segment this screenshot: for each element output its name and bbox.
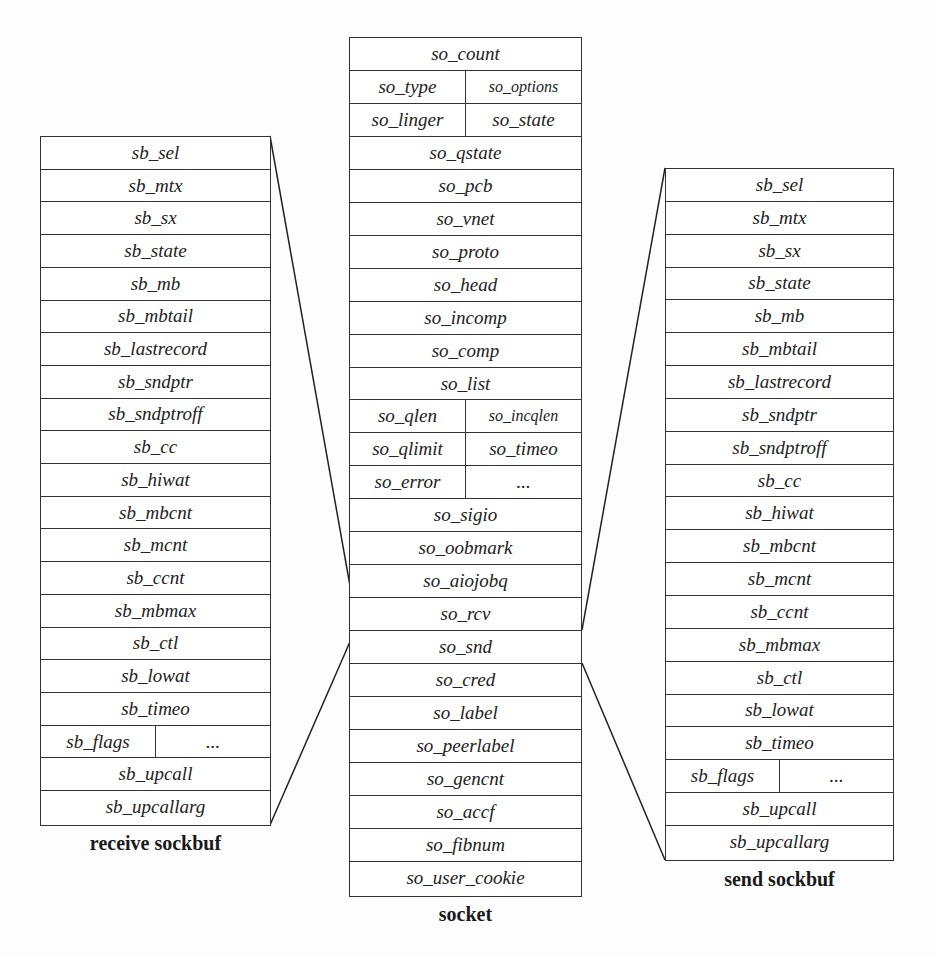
struct-field-row: sb_ctl — [41, 628, 270, 661]
field-sb-lowat: sb_lowat — [41, 660, 270, 692]
struct-field-row: sb_mbcnt — [41, 497, 270, 530]
struct-field-row: sb_mbmax — [666, 629, 893, 662]
field-sb-sel: sb_sel — [666, 169, 893, 201]
struct-field-row: so_gencnt — [350, 763, 581, 796]
struct-field-row: so_cred — [350, 664, 581, 697]
struct-field-row: sb_mtx — [41, 170, 270, 203]
field-sb-flags: sb_flags — [666, 760, 779, 792]
struct-field-row: so_proto — [350, 236, 581, 269]
field-so-comp: so_comp — [350, 335, 581, 367]
struct-field-row: so_user_cookie — [350, 862, 581, 895]
struct-field-row: sb_mb — [666, 300, 893, 333]
struct-field-row: so_qlenso_incqlen — [350, 400, 581, 433]
struct-field-row: sb_cc — [666, 465, 893, 498]
field-so-rcv: so_rcv — [350, 598, 581, 630]
struct-field-row: sb_lastrecord — [666, 366, 893, 399]
struct-field-row: sb_ccnt — [666, 596, 893, 629]
struct-field-row: so_count — [350, 38, 581, 71]
field-sb-state: sb_state — [41, 235, 270, 267]
send-sockbuf-caption: send sockbuf — [665, 868, 894, 891]
struct-field-row: sb_upcallarg — [41, 791, 270, 824]
snd-connector-bottom — [582, 663, 665, 860]
field-sb-cc: sb_cc — [666, 465, 893, 497]
struct-field-row: sb_sel — [41, 137, 270, 170]
field-so-pcb: so_pcb — [350, 170, 581, 202]
struct-field-row: so_error... — [350, 466, 581, 499]
field-sb-lastrecord: sb_lastrecord — [666, 366, 893, 398]
struct-field-row: sb_mtx — [666, 202, 893, 235]
field-sb-mbtail: sb_mbtail — [666, 333, 893, 365]
field-sb-mtx: sb_mtx — [666, 202, 893, 234]
struct-field-row: sb_sndptr — [666, 399, 893, 432]
rcv-connector-top — [270, 136, 352, 597]
field-sb-sx: sb_sx — [666, 235, 893, 267]
struct-field-row: so_label — [350, 697, 581, 730]
field-sb-mbtail: sb_mbtail — [41, 301, 270, 333]
field-sb-mcnt: sb_mcnt — [666, 563, 893, 595]
field-sb-state: sb_state — [666, 268, 893, 300]
struct-field-row: sb_hiwat — [41, 464, 270, 497]
struct-field-row: sb_mbtail — [666, 333, 893, 366]
struct-field-row: so_vnet — [350, 203, 581, 236]
field-so-type: so_type — [350, 71, 465, 103]
field-so-head: so_head — [350, 269, 581, 301]
field-sb-sndptr: sb_sndptr — [41, 366, 270, 398]
struct-field-row: sb_upcall — [666, 793, 893, 826]
struct-field-row: sb_mbcnt — [666, 530, 893, 563]
field-so-error: so_error — [350, 466, 465, 498]
field-sb-hiwat: sb_hiwat — [666, 497, 893, 529]
field-so-aiojobq: so_aiojobq — [350, 565, 581, 597]
struct-field-row: sb_lastrecord — [41, 333, 270, 366]
field-sb-mcnt: sb_mcnt — [41, 529, 270, 561]
field-sb-lastrecord: sb_lastrecord — [41, 333, 270, 365]
field-sb-ccnt: sb_ccnt — [666, 596, 893, 628]
field-so-qstate: so_qstate — [350, 137, 581, 169]
struct-field-row: so_qlimitso_timeo — [350, 433, 581, 466]
field-sb-flags: sb_flags — [41, 726, 155, 758]
struct-field-row: so_head — [350, 269, 581, 302]
struct-field-row: sb_upcall — [41, 758, 270, 791]
field-sb-hiwat: sb_hiwat — [41, 464, 270, 496]
receive-sockbuf-struct: sb_selsb_mtxsb_sxsb_statesb_mbsb_mbtails… — [40, 136, 271, 826]
socket-caption: socket — [349, 903, 582, 926]
field-sb-upcallarg: sb_upcallarg — [666, 826, 893, 859]
struct-field-row: so_accf — [350, 796, 581, 829]
field-so-accf: so_accf — [350, 796, 581, 828]
struct-field-row: so_snd — [350, 631, 581, 664]
field-sb-mbmax: sb_mbmax — [666, 629, 893, 661]
struct-field-row: sb_mcnt — [666, 563, 893, 596]
send-sockbuf-struct: sb_selsb_mtxsb_sxsb_statesb_mbsb_mbtails… — [665, 168, 894, 861]
field-sb-mtx: sb_mtx — [41, 170, 270, 202]
field-so-snd: so_snd — [350, 631, 581, 663]
struct-field-row: sb_flags... — [41, 726, 270, 759]
struct-field-row: sb_state — [41, 235, 270, 268]
field-sb-timeo: sb_timeo — [41, 693, 270, 725]
struct-field-row: so_aiojobq — [350, 565, 581, 598]
struct-field-row: so_lingerso_state — [350, 104, 581, 137]
struct-field-row: sb_timeo — [666, 727, 893, 760]
field-so-sigio: so_sigio — [350, 499, 581, 531]
struct-field-row: sb_upcallarg — [666, 826, 893, 859]
field-so-state: so_state — [465, 104, 581, 136]
struct-field-row: so_incomp — [350, 302, 581, 335]
struct-field-row: so_oobmark — [350, 532, 581, 565]
field-so-linger: so_linger — [350, 104, 465, 136]
struct-field-row: so_rcv — [350, 598, 581, 631]
struct-field-row: sb_timeo — [41, 693, 270, 726]
field-so-proto: so_proto — [350, 236, 581, 268]
field-ellipsisellipsisellipsis: ... — [779, 760, 893, 792]
field-so-count: so_count — [350, 38, 581, 70]
field-ellipsisellipsisellipsis: ... — [465, 466, 581, 498]
struct-field-row: so_sigio — [350, 499, 581, 532]
struct-field-row: sb_sndptr — [41, 366, 270, 399]
struct-field-row: sb_mbtail — [41, 301, 270, 334]
socket-struct: so_countso_typeso_optionsso_lingerso_sta… — [349, 37, 582, 897]
receive-sockbuf-caption: receive sockbuf — [40, 832, 271, 855]
field-sb-mbcnt: sb_mbcnt — [666, 530, 893, 562]
field-sb-ccnt: sb_ccnt — [41, 562, 270, 594]
struct-field-row: sb_state — [666, 268, 893, 301]
rcv-connector-bottom — [270, 628, 356, 825]
field-so-oobmark: so_oobmark — [350, 532, 581, 564]
struct-field-row: so_fibnum — [350, 829, 581, 862]
struct-field-row: sb_sndptroff — [41, 399, 270, 432]
